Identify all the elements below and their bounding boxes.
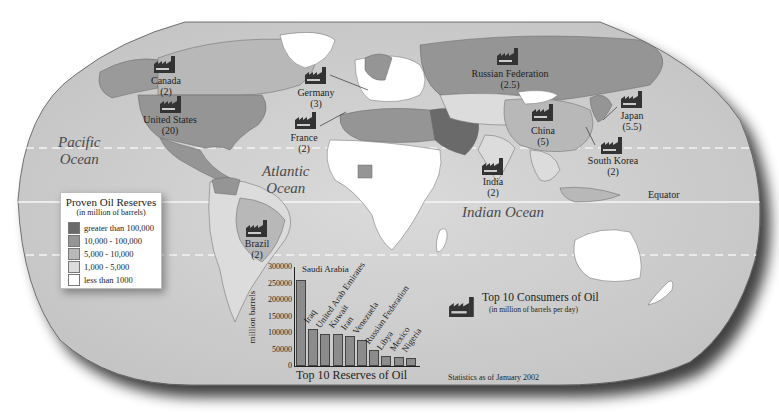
consumer-label-germany: Germany (3)	[296, 87, 336, 109]
indian-line1: Indian Ocean	[462, 204, 544, 221]
consumer-label-united-states: United States (20)	[140, 114, 200, 136]
x-axis-line	[294, 366, 420, 367]
land-nigeria	[358, 165, 372, 178]
bar	[394, 357, 404, 366]
bar	[406, 358, 416, 366]
legend-item-label: 5,000 - 10,000	[84, 249, 134, 259]
bar	[381, 356, 391, 366]
country-name: Brazil	[240, 238, 274, 249]
country-name: South Korea	[586, 155, 640, 166]
bars-container: Saudi ArabiaIraqUnited Arab EmiratesKuwa…	[294, 267, 420, 366]
consumption-value: (20)	[140, 125, 200, 136]
legend-item: greater than 100,000	[68, 221, 161, 234]
factory-icon	[482, 158, 504, 175]
country-name: Russian Federation	[470, 68, 550, 79]
factory-icon	[305, 67, 327, 84]
atlantic-line2: Ocean	[262, 180, 310, 197]
factory-icon	[621, 91, 643, 108]
pacific-line2: Ocean	[58, 151, 100, 168]
country-name: Germany	[296, 87, 336, 98]
consumer-label-japan: Japan (5.5)	[616, 110, 648, 132]
legend-item-label: 1,000 - 5,000	[84, 262, 129, 272]
y-tick-label: 100000	[268, 329, 292, 337]
country-name: India	[478, 176, 508, 187]
indian-ocean-label: Indian Ocean	[462, 204, 544, 221]
chart-title: Top 10 Reserves of Oil	[296, 368, 407, 383]
consumer-label-canada: Canada (2)	[146, 75, 186, 97]
legend-item: 5,000 - 10,000	[68, 247, 161, 260]
consumers-key-title: Top 10 Consumers of Oil	[482, 291, 599, 303]
consumption-value: (2)	[240, 249, 274, 260]
country-name: China	[526, 125, 560, 136]
factory-icon	[601, 137, 623, 154]
bar	[345, 336, 355, 366]
reserves-legend: Proven Oil Reserves (in million of barre…	[60, 192, 162, 289]
legend-swatch	[68, 261, 80, 273]
y-tick-label: 300000	[268, 263, 292, 271]
y-tick-label: 0	[288, 362, 292, 370]
y-tick-label: 200000	[268, 296, 292, 304]
consumption-value: (3)	[296, 98, 336, 109]
y-axis-ticks: 300000250000200000150000100000500000	[254, 262, 292, 372]
y-tick-label: 250000	[268, 280, 292, 288]
bar	[357, 340, 367, 366]
statistics-footnote: Statistics as of January 2002	[448, 373, 539, 382]
legend-item-label: greater than 100,000	[84, 223, 154, 233]
legend-swatch	[68, 222, 80, 234]
legend-item: less than 1000	[68, 273, 161, 286]
consumer-label-india: India (2)	[478, 176, 508, 198]
bar	[369, 350, 379, 366]
factory-icon	[160, 96, 182, 113]
consumption-value: (2)	[586, 166, 640, 177]
legend-item-label: 10,000 - 100,000	[84, 236, 142, 246]
factory-icon	[154, 56, 176, 73]
consumer-label-south-korea: South Korea (2)	[586, 155, 640, 177]
consumption-value: (2)	[478, 187, 508, 198]
country-name: United States	[140, 114, 200, 125]
land-venezuela	[212, 178, 240, 196]
legend-item: 10,000 - 100,000	[68, 234, 161, 247]
legend-title: Proven Oil Reserves	[61, 196, 161, 208]
consumption-value: (2.5)	[470, 79, 550, 90]
y-tick-label: 150000	[268, 313, 292, 321]
consumer-label-china: China (5)	[526, 125, 560, 147]
bar	[296, 280, 306, 366]
consumption-value: (5.5)	[616, 121, 648, 132]
factory-icon	[295, 112, 317, 129]
legend-swatch	[68, 248, 80, 260]
atlantic-line1: Atlantic	[262, 163, 310, 180]
factory-icon	[532, 104, 554, 121]
country-name: Canada	[146, 75, 186, 86]
consumer-label-france: France (2)	[286, 132, 322, 154]
y-tick-label: 50000	[272, 346, 292, 354]
legend-item: 1,000 - 5,000	[68, 260, 161, 273]
legend-subtitle: (in million of barrels)	[61, 208, 161, 218]
consumption-value: (2)	[286, 143, 322, 154]
factory-icon	[497, 48, 519, 65]
consumer-label-brazil: Brazil (2)	[240, 238, 274, 260]
legend-swatch	[68, 235, 80, 247]
pacific-ocean-label: Pacific Ocean	[58, 134, 100, 168]
y-axis-label: million barrels	[247, 291, 257, 344]
country-name: Japan	[616, 110, 648, 121]
atlantic-ocean-label: Atlantic Ocean	[262, 163, 310, 197]
bar-category-label: Saudi Arabia	[302, 264, 349, 274]
land-north-africa	[340, 108, 435, 142]
factory-icon	[246, 220, 268, 237]
consumers-key-subtitle: (in million of barrels per day)	[489, 305, 578, 314]
consumer-label-russian-federation: Russian Federation (2.5)	[470, 68, 550, 90]
bar	[333, 334, 343, 366]
country-name: France	[286, 132, 322, 143]
factory-icon	[449, 297, 471, 314]
consumption-value: (5)	[526, 136, 560, 147]
bar	[308, 329, 318, 366]
reserves-bar-chart: 300000250000200000150000100000500000 mil…	[254, 262, 434, 386]
equator-label: Equator	[648, 189, 680, 200]
legend-item-label: less than 1000	[84, 275, 133, 285]
pacific-line1: Pacific	[58, 134, 100, 151]
legend-swatch	[68, 274, 80, 286]
bar	[320, 334, 330, 366]
